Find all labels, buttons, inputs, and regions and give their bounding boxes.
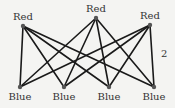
annotation-label: 2: [161, 48, 167, 59]
blue-node-label-1: Blue: [9, 91, 32, 102]
red-node-label-2: Red: [86, 3, 106, 14]
labels: RedRedRedBlueBlueBlueBlue: [9, 3, 166, 102]
bipartite-graph-diagram: RedRedRedBlueBlueBlueBlue 2: [0, 0, 175, 108]
red-node-3: [148, 23, 152, 27]
graph-canvas: RedRedRedBlueBlueBlueBlue 2: [0, 0, 175, 108]
blue-node-1: [18, 85, 22, 89]
red-node-label-1: Red: [13, 11, 33, 22]
edge-red2-blue3: [96, 18, 109, 87]
red-node-1: [21, 24, 25, 28]
edges: [20, 18, 154, 87]
blue-node-4: [152, 85, 156, 89]
red-node-2: [94, 16, 98, 20]
edge-red1-blue1: [20, 26, 23, 87]
blue-node-2: [62, 85, 66, 89]
red-node-label-3: Red: [140, 10, 160, 21]
edge-red1-blue3: [23, 26, 109, 87]
blue-node-label-2: Blue: [53, 91, 76, 102]
edge-red3-blue4: [150, 25, 154, 87]
blue-node-label-3: Blue: [98, 91, 121, 102]
blue-node-3: [107, 85, 111, 89]
blue-node-label-4: Blue: [143, 91, 166, 102]
